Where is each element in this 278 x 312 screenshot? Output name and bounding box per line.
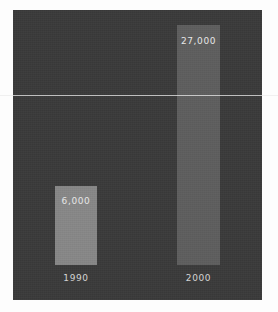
bar-value-label-1990: 6,000	[55, 196, 97, 206]
category-label-2000: 2000	[177, 273, 220, 283]
bar-1990[interactable]: 6,000	[55, 186, 97, 265]
bar-value-label-2000: 27,000	[177, 36, 220, 46]
bar-2000[interactable]: 27,000	[177, 25, 220, 265]
chart-figure: 6,000 27,000 1990 2000	[0, 0, 278, 312]
category-label-1990: 1990	[55, 273, 97, 283]
plot-area: 6,000 27,000 1990 2000	[13, 10, 262, 300]
